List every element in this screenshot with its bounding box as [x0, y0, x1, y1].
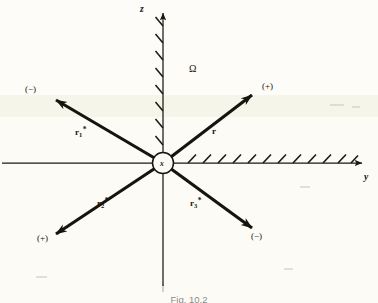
charge-sign-upper-right: (+)	[262, 82, 273, 91]
y-axis-hatching	[188, 155, 358, 164]
vector-label-r3star: r3*	[190, 199, 201, 208]
y-axis-label: y	[364, 173, 368, 183]
vector-arrow-r2star	[56, 163, 163, 234]
vector-label-r1star-star: *	[83, 125, 87, 134]
region-omega-label: Ω	[189, 64, 196, 74]
z-axis-label: z	[140, 5, 144, 15]
vector-label-r2star: r2*	[97, 199, 108, 208]
vector-label-r1star-subscript: 1	[79, 131, 82, 138]
figure-caption: Fig. 10.2	[0, 294, 378, 303]
charge-sign-lower-right: (−)	[251, 232, 262, 241]
diagram-canvas	[0, 0, 378, 303]
y-axis	[2, 155, 362, 164]
vector-label-r2star-subscript: 2	[101, 202, 104, 209]
vector-label-r3star-subscript: 3	[194, 202, 197, 209]
vector-label-r1star: r1*	[75, 128, 86, 137]
vector-arrow-r1star	[56, 100, 163, 163]
vector-label-r: r	[212, 127, 216, 136]
z-axis-hatching	[156, 17, 164, 145]
z-axis	[156, 13, 164, 286]
origin-label: x	[160, 160, 164, 168]
vector-label-r3star-star: *	[198, 196, 202, 205]
charge-sign-lower-left: (+)	[37, 234, 48, 243]
vector-arrow-r	[163, 95, 252, 163]
figure-container: x z y Ω (−) (+) (+) (−) r1* r r2* r3* Fi…	[0, 0, 378, 303]
charge-sign-upper-left: (−)	[25, 85, 36, 94]
vector-label-r2star-star: *	[105, 196, 109, 205]
vector-arrow-r3star	[163, 163, 252, 228]
vector-label-r-base: r	[212, 126, 216, 136]
